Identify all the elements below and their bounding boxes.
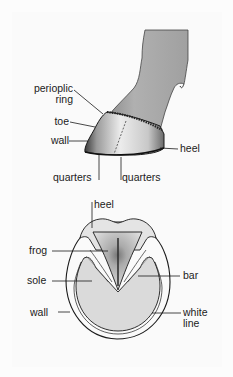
label-white-line: white line <box>183 307 208 329</box>
label-wall-side: wall <box>20 135 69 146</box>
label-quarters-right: quarters <box>122 172 161 183</box>
label-perioplic-ring: perioplic ring <box>20 83 73 105</box>
label-quarters-left: quarters <box>53 172 92 183</box>
label-heel-side: heel <box>180 143 200 154</box>
label-frog: frog <box>29 245 47 256</box>
label-bar: bar <box>183 270 198 281</box>
label-ring-line2: ring <box>20 94 73 105</box>
label-toe: toe <box>20 116 69 127</box>
label-wall-bottom: wall <box>30 307 48 318</box>
label-heel-bottom: heel <box>94 199 114 210</box>
bottom-view-hoof <box>66 219 170 339</box>
label-white-line2: line <box>183 318 208 329</box>
hoof-diagram: perioplic ring toe wall heel quarters qu… <box>0 0 233 377</box>
label-sole: sole <box>27 275 46 286</box>
